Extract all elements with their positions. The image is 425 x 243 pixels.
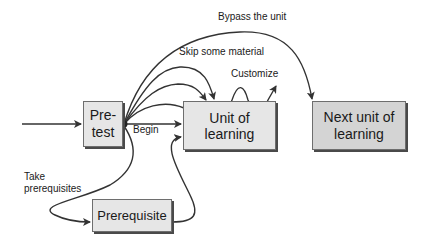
prerequisite-node: Prerequisite [92, 199, 172, 232]
take-prereq-line2: prerequisites [24, 183, 81, 195]
pretest-label-line1: Pre- [90, 107, 116, 124]
skip-label: Skip some material [179, 46, 264, 58]
next-unit-label-line2: learning [324, 126, 395, 143]
take-prereq-line1: Take [24, 171, 81, 183]
bypass-label: Bypass the unit [218, 11, 286, 23]
begin-label: Begin [133, 124, 159, 136]
take-prerequisites-label: Take prerequisites [24, 171, 81, 195]
customize-label: Customize [231, 68, 278, 80]
pretest-node: Pre- test [83, 101, 123, 147]
unit-label: Unit of learning [184, 110, 275, 142]
next-unit-label-line1: Next unit of [324, 109, 395, 126]
next-unit-node: Next unit of learning [312, 101, 406, 150]
pretest-label-line2: test [90, 124, 116, 141]
prerequisite-label: Prerequisite [97, 208, 166, 223]
unit-of-learning-node: Unit of learning [183, 101, 276, 150]
